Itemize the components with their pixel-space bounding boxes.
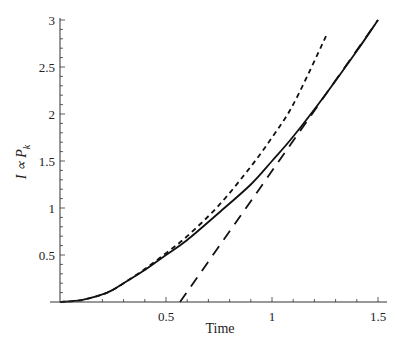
axes [50,18,387,302]
y-tick-label: 2.5 [39,60,55,75]
x-axis-title: Time [205,321,234,336]
y-tick-label: 1 [49,201,56,216]
y-tick-label: 1.5 [39,154,55,169]
x-tick-label: 1 [269,309,276,324]
y-tick-label: 3 [49,13,56,28]
y-tick-label: 0.5 [39,248,55,263]
ticks: 0.511.50.511.522.53 [39,13,386,324]
series-short-dashed [60,36,326,302]
plot-lines [60,20,378,302]
y-axis-title: I ∝ Pk [14,144,32,180]
series-solid [60,20,378,302]
x-tick-label: 1.5 [370,309,386,324]
series-long-dashed [180,20,378,302]
y-tick-label: 2 [49,107,56,122]
x-tick-label: 0.5 [158,309,174,324]
chart: 0.511.50.511.522.53 Time I ∝ Pk [0,0,407,349]
